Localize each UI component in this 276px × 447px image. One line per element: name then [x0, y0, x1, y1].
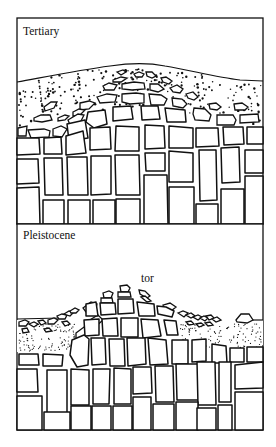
panel-pleistocene: Pleistocene tor — [17, 224, 263, 430]
label-pleistocene: Pleistocene — [23, 229, 75, 241]
tor-formation-diagram: Tertiary — [0, 0, 276, 447]
label-tertiary: Tertiary — [23, 25, 59, 38]
panel-tertiary: Tertiary — [17, 18, 263, 224]
label-tor: tor — [141, 272, 154, 284]
